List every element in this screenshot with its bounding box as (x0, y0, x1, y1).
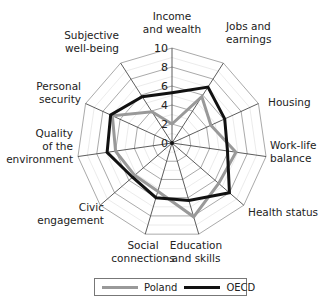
axis-label: Educationand skills (170, 239, 222, 264)
axis-label: Personalsecurity (36, 80, 81, 105)
axis-label: Qualityof theenvironment (6, 127, 73, 165)
radial-tick-label: 10 (154, 42, 168, 55)
legend: Poland OECD (94, 278, 247, 296)
oecd-swatch (184, 286, 220, 289)
legend-label-oecd: OECD (226, 282, 255, 293)
radial-tick-label: 2 (161, 118, 168, 131)
axis-label: Civicengagement (37, 201, 104, 226)
axis-label: Work-lifebalance (270, 139, 316, 164)
axis-spoke (78, 143, 172, 157)
center-dot (170, 141, 174, 145)
radial-tick-label: 8 (161, 61, 168, 74)
axis-label: Incomeand wealth (143, 10, 201, 35)
radial-tick-label: 4 (161, 99, 168, 112)
axis-spoke (172, 143, 266, 157)
legend-label-poland: Poland (144, 282, 177, 293)
poland-swatch (102, 286, 138, 289)
axis-label: Jobs andearnings (225, 20, 271, 45)
radial-tick-label: 6 (161, 80, 168, 93)
legend-item-poland: Poland (95, 282, 177, 293)
radial-tick-label: 0 (161, 137, 168, 150)
legend-item-oecd: OECD (177, 282, 255, 293)
radar-chart: 0246810 Incomeand wealthJobs andearnings… (0, 0, 319, 306)
axis-label: Housing (268, 96, 311, 108)
axis-label: Subjectivewell-being (64, 29, 119, 54)
axis-label: Health status (248, 206, 318, 218)
axis-label: Socialconnections (111, 239, 174, 264)
